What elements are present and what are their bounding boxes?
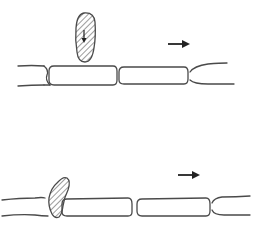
top-panel [18,13,234,86]
filament-cell-1 [62,198,132,216]
top-hatched-cell [76,13,96,62]
filament-cell-2 [137,198,210,216]
bottom-filament [2,196,250,216]
bottom-panel [2,171,250,218]
top-filament [18,63,234,86]
diagram-figure [0,0,259,226]
diagram-canvas [0,0,259,226]
filament-cell-1 [49,66,117,85]
filament-cell-2 [119,67,188,84]
right-arrow-icon [168,40,190,48]
right-arrow-icon [178,171,200,179]
